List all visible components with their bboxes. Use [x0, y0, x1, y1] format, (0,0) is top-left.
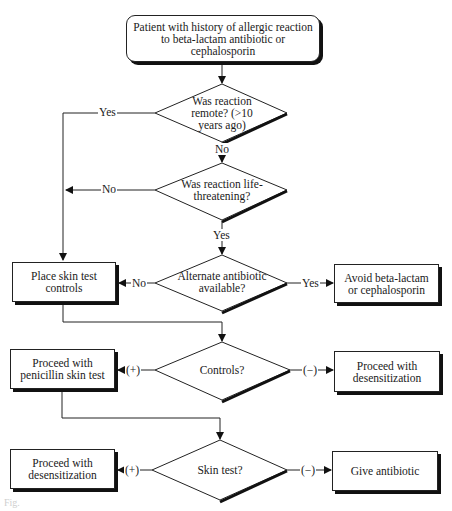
edge-label-skin-positive: (+) [124, 464, 140, 476]
decision-controls: Controls? [180, 362, 264, 378]
decision-skin-test: Skin test? [178, 462, 262, 478]
edge-label-life-yes: Yes [212, 229, 231, 241]
penicillin-skin-test-box: Proceed with penicillin skin test [10, 349, 115, 389]
place-skin-test-controls-box: Place skin test controls [12, 262, 116, 302]
start-box: Patient with history of allergic reactio… [126, 15, 320, 62]
edge-label-alt-no: No [131, 277, 147, 289]
edge-label-controls-positive: (+) [125, 364, 141, 376]
edge-label-skin-negative: (−) [300, 464, 316, 476]
figure-label: Fig. [4, 497, 20, 508]
edge-label-alt-yes: Yes [301, 277, 320, 289]
edge-label-remote-yes: Yes [98, 106, 117, 118]
edge-label-remote-no: No [214, 143, 230, 155]
decision-remote: Was reaction remote? (>10 years ago) [180, 92, 264, 134]
desensitization-controls-box: Proceed with desensitization [334, 351, 440, 392]
desensitization-skin-box: Proceed with desensitization [10, 449, 115, 489]
avoid-beta-lactam-box: Avoid beta-lactam or cephalosporin [334, 264, 439, 303]
decision-life-threatening: Was reaction life-threatening? [180, 176, 264, 204]
flowchart-connectors [0, 0, 452, 511]
edge-label-life-no: No [101, 183, 117, 195]
decision-alternate-antibiotic: Alternate antibiotic available? [174, 268, 270, 296]
edge-label-controls-negative: (−) [302, 364, 318, 376]
give-antibiotic-box: Give antibiotic [332, 451, 438, 491]
